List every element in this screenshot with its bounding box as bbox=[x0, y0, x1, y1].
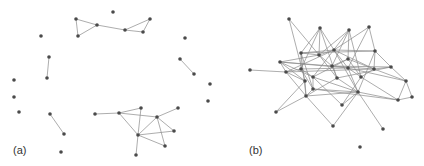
graph-edge bbox=[76, 19, 97, 25]
graph-node bbox=[318, 26, 322, 30]
graph-node bbox=[287, 17, 291, 21]
graph-node bbox=[278, 60, 282, 64]
graph-node bbox=[139, 106, 143, 110]
graph-edge bbox=[320, 28, 334, 50]
graph-edge bbox=[47, 57, 49, 78]
graph-node bbox=[172, 129, 176, 133]
graph-node bbox=[396, 98, 400, 102]
graph-edge bbox=[358, 51, 375, 92]
graph-edge bbox=[286, 72, 306, 96]
graph-edge bbox=[119, 113, 138, 135]
graph-edge bbox=[276, 81, 305, 112]
graph-node bbox=[299, 67, 303, 71]
graph-node bbox=[311, 75, 315, 79]
graph-edge bbox=[138, 108, 141, 135]
graph-edge bbox=[276, 96, 306, 112]
graph-node bbox=[317, 53, 321, 57]
graph-edge bbox=[280, 62, 348, 68]
graph-edge bbox=[301, 68, 348, 69]
graph-edge bbox=[301, 53, 319, 55]
graph-edge bbox=[301, 28, 320, 69]
graph-edge bbox=[157, 117, 165, 146]
graph-node bbox=[45, 76, 49, 80]
graph-node bbox=[178, 57, 182, 61]
graph-node bbox=[111, 10, 115, 14]
graph-edge bbox=[348, 30, 349, 59]
graph-node bbox=[62, 132, 66, 136]
panel-b-label: (b) bbox=[249, 144, 262, 156]
graph-edge bbox=[97, 25, 125, 30]
network-figure: (a) (b) bbox=[0, 0, 424, 166]
graph-node bbox=[155, 115, 159, 119]
graph-edge bbox=[138, 117, 157, 135]
graph-node bbox=[284, 70, 288, 74]
graph-edge bbox=[398, 97, 412, 100]
graph-node bbox=[358, 145, 362, 149]
graph-node bbox=[330, 64, 334, 68]
graph-edge bbox=[398, 81, 406, 100]
graph-node bbox=[303, 79, 307, 83]
graph-node bbox=[346, 57, 350, 61]
graph-node bbox=[136, 133, 140, 137]
graph-edge bbox=[157, 117, 174, 131]
graph-edge bbox=[78, 25, 97, 36]
graph-node bbox=[95, 23, 99, 27]
graph-edge bbox=[119, 113, 157, 117]
graph-node bbox=[410, 95, 414, 99]
graph-node bbox=[356, 90, 360, 94]
graph-node bbox=[48, 112, 52, 116]
graph-node bbox=[76, 34, 80, 38]
graph-node bbox=[331, 124, 335, 128]
graph-edge bbox=[119, 108, 141, 113]
graph-edge bbox=[305, 81, 306, 96]
graph-edge bbox=[125, 30, 143, 32]
graph-edge bbox=[157, 108, 178, 117]
graph-node bbox=[389, 65, 393, 69]
graph-edge bbox=[332, 66, 337, 78]
graph-node bbox=[47, 55, 51, 59]
graph-edge bbox=[138, 135, 165, 146]
graph-edge bbox=[375, 51, 391, 67]
graph-edge bbox=[125, 19, 150, 30]
graph-edge bbox=[76, 19, 78, 36]
graph-node bbox=[274, 110, 278, 114]
graph-node bbox=[299, 51, 303, 55]
graph-node bbox=[332, 48, 336, 52]
graph-node bbox=[304, 94, 308, 98]
network-graphs bbox=[0, 0, 424, 166]
panel-a-nodes bbox=[12, 10, 212, 157]
graph-edge bbox=[369, 27, 375, 51]
graph-node bbox=[346, 66, 350, 70]
graph-node bbox=[367, 25, 371, 29]
graph-edge bbox=[334, 50, 358, 92]
graph-node bbox=[206, 99, 210, 103]
graph-edge bbox=[138, 131, 174, 135]
graph-node bbox=[74, 17, 78, 21]
graph-node bbox=[373, 49, 377, 53]
panel-a-edges bbox=[47, 19, 194, 155]
graph-node bbox=[12, 95, 16, 99]
graph-edge bbox=[306, 96, 333, 126]
graph-edge bbox=[333, 92, 358, 126]
graph-node bbox=[208, 82, 212, 86]
graph-node bbox=[123, 28, 127, 32]
graph-edge bbox=[136, 135, 138, 155]
graph-node bbox=[183, 36, 187, 40]
graph-edge bbox=[95, 113, 119, 114]
graph-node bbox=[372, 67, 376, 71]
graph-node bbox=[176, 106, 180, 110]
graph-edge bbox=[334, 50, 375, 51]
graph-edge bbox=[391, 67, 406, 81]
graph-node bbox=[163, 144, 167, 148]
graph-edge bbox=[143, 19, 150, 32]
graph-node bbox=[335, 76, 339, 80]
graph-node bbox=[248, 68, 252, 72]
graph-node bbox=[117, 111, 121, 115]
graph-node bbox=[340, 103, 344, 107]
graph-node bbox=[134, 153, 138, 157]
graph-edge bbox=[250, 70, 286, 72]
graph-node bbox=[347, 28, 351, 32]
graph-edge bbox=[50, 114, 64, 134]
graph-node bbox=[93, 112, 97, 116]
graph-node bbox=[17, 110, 21, 114]
